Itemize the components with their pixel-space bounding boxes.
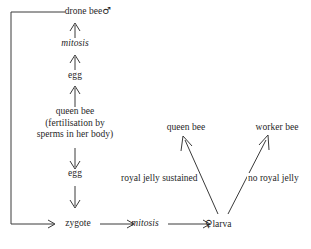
node-larva-label: larva — [212, 219, 231, 229]
arrowhead-into-worker-bee-result — [259, 135, 269, 150]
arrowhead-into-drone — [70, 23, 80, 31]
node-mitosis-lower: mitosis — [120, 218, 170, 229]
node-larva: ♀larva — [205, 218, 261, 230]
arrowhead-into-mitosis-upper — [70, 55, 80, 63]
node-zygote: zygote — [55, 218, 101, 229]
arrowhead-into-zygote-vertical — [70, 200, 80, 208]
edge-label-no-royal-jelly: no royal jelly — [247, 173, 300, 184]
node-egg-upper: egg — [55, 70, 95, 81]
male-symbol-icon: ♂ — [102, 5, 111, 16]
arrowhead-into-zygote — [48, 220, 55, 228]
node-queen-bee-parent-line3: sperms in her body) — [6, 129, 144, 141]
node-queen-bee-parent-line2: (fertilisation by — [6, 118, 144, 130]
node-mitosis-upper: mitosis — [45, 38, 105, 49]
node-queen-bee-parent: queen bee (fertilisation by sperms in he… — [6, 106, 144, 141]
bee-life-cycle-diagram: drone bee♂ mitosis egg queen bee (fertil… — [0, 0, 311, 249]
node-queen-bee-parent-line1: queen bee — [6, 106, 144, 118]
node-worker-bee-result: worker bee — [243, 122, 311, 133]
node-drone-bee-label: drone bee — [65, 6, 103, 16]
edge-label-royal-jelly-sustained: royal jelly sustained — [120, 173, 199, 184]
node-egg-lower: egg — [55, 168, 95, 179]
node-queen-bee-result: queen bee — [151, 122, 221, 133]
node-drone-bee: drone bee♂ — [48, 5, 128, 17]
arrowhead-into-queen-bee-result — [181, 136, 192, 151]
arrowhead-into-egg-upper — [70, 86, 80, 94]
